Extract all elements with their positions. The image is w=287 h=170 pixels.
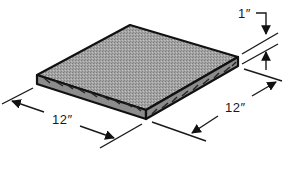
thickness-dimension xyxy=(242,13,278,70)
board-diagram xyxy=(0,0,287,170)
extension-line-right xyxy=(244,69,282,81)
board xyxy=(37,25,238,119)
leader-line xyxy=(256,13,266,34)
extension-line-bottom xyxy=(242,44,278,64)
length-label: 12″ xyxy=(52,113,73,126)
extension-line-front-right xyxy=(152,122,206,141)
thickness-label: 1″ xyxy=(238,7,251,20)
width-label: 12″ xyxy=(225,101,246,114)
extension-line-left xyxy=(2,88,33,104)
board-top-face xyxy=(37,25,238,110)
extension-line-top xyxy=(242,33,278,54)
length-arrow-right xyxy=(80,126,114,138)
length-arrow-left xyxy=(12,101,44,112)
width-arrow-down xyxy=(192,116,218,133)
width-arrow-up xyxy=(252,82,276,96)
